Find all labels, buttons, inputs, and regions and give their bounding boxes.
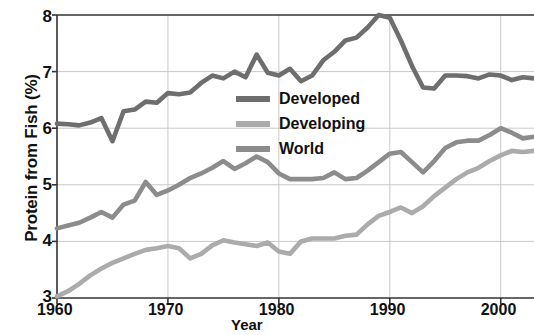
- x-tick-1970: 1970: [148, 301, 184, 319]
- y-tick-4: 4: [30, 232, 52, 249]
- x-tick-1980: 1980: [259, 301, 295, 319]
- y-tick-5: 5: [30, 176, 52, 193]
- legend-label-world: World: [279, 140, 324, 158]
- chart-legend: Developed Developing World: [236, 88, 365, 163]
- x-tick-1990: 1990: [370, 301, 406, 319]
- x-axis-label: Year: [231, 316, 263, 333]
- y-tick-6: 6: [30, 120, 52, 137]
- y-axis-tick-labels: 8 7 6 5 4 3: [24, 0, 52, 335]
- x-tick-1960: 1960: [37, 301, 73, 319]
- legend-item-developing: Developing: [236, 113, 365, 135]
- legend-item-world: World: [236, 138, 365, 160]
- legend-swatch-developed: [236, 96, 270, 102]
- legend-swatch-developing: [236, 121, 270, 127]
- x-tick-2000: 2000: [481, 301, 517, 319]
- legend-label-developing: Developing: [279, 115, 365, 133]
- y-tick-7: 7: [30, 64, 52, 81]
- legend-label-developed: Developed: [279, 90, 360, 108]
- plot-area: [0, 0, 534, 335]
- series-line-developing: [57, 151, 534, 296]
- protein-from-fish-chart: Protein from Fish (%) 8 7 6 5 4 3 Develo…: [0, 0, 534, 335]
- legend-item-developed: Developed: [236, 88, 365, 110]
- legend-swatch-world: [236, 146, 270, 152]
- y-tick-8: 8: [30, 8, 52, 25]
